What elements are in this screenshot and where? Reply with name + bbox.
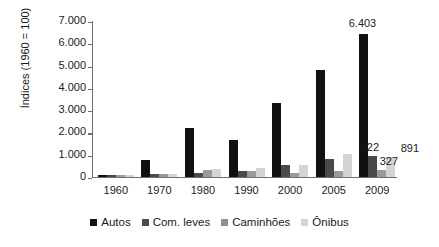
bar-nibus-2000 — [299, 165, 308, 177]
bar-caminh-es-1990 — [247, 171, 256, 177]
legend-label: Caminhões — [232, 216, 290, 228]
bars — [185, 21, 221, 177]
bar-group-2009: 2009 — [359, 21, 395, 177]
y-tick-mark — [88, 156, 92, 157]
y-tick-mark — [88, 178, 92, 179]
y-tick-label: 7.000 — [58, 14, 86, 26]
bars — [141, 21, 177, 177]
bar-nibus-1980 — [212, 169, 221, 177]
bar-group-1980: 1980 — [185, 21, 221, 177]
x-tick-label: 2000 — [278, 184, 302, 196]
x-tick-label: 2005 — [321, 184, 345, 196]
y-axis-title: Índices (1960 = 100) — [19, 0, 31, 138]
legend-swatch-icon — [221, 219, 228, 226]
bar-autos-1980 — [185, 128, 194, 177]
y-tick-label: 4.000 — [58, 81, 86, 93]
y-tick-mark — [88, 133, 92, 134]
data-label-nibus: 891 — [401, 142, 419, 154]
y-tick-mark — [88, 44, 92, 45]
y-tick-label: 2.000 — [58, 125, 86, 137]
bars — [272, 21, 308, 177]
legend-swatch-icon — [142, 219, 149, 226]
bar-com-leves-2000 — [281, 165, 290, 177]
legend-item-autos[interactable]: Autos — [90, 216, 130, 228]
bar-autos-1960 — [98, 175, 107, 177]
bar-chart: Índices (1960 = 100) 01.0002.0003.0004.0… — [0, 0, 439, 247]
data-label-com-leves: 922 — [361, 141, 379, 153]
bar-autos-1990 — [229, 140, 238, 177]
y-tick-label: 3.000 — [58, 103, 86, 115]
bar-caminh-es-1980 — [203, 170, 212, 177]
bar-caminh-es-1960 — [116, 175, 125, 177]
legend-item-nibus[interactable]: Ônibus — [301, 216, 348, 228]
bars — [229, 21, 265, 177]
bar-autos-2005 — [316, 70, 325, 177]
bar-caminh-es-2005 — [334, 171, 343, 177]
legend-swatch-icon — [90, 219, 97, 226]
bar-group-1970: 1970 — [141, 21, 177, 177]
bar-autos-1970 — [141, 160, 150, 177]
y-tick-mark — [88, 111, 92, 112]
bar-com-leves-2009 — [368, 156, 377, 177]
legend-label: Ônibus — [312, 216, 348, 228]
bar-com-leves-1980 — [194, 173, 203, 177]
bar-com-leves-1960 — [107, 175, 116, 177]
bar-group-2000: 2000 — [272, 21, 308, 177]
x-tick-label: 1980 — [191, 184, 215, 196]
y-axis-line — [92, 21, 93, 178]
x-tick-label: 2009 — [365, 184, 389, 196]
bar-caminh-es-2009 — [377, 170, 386, 177]
x-tick-label: 1960 — [104, 184, 128, 196]
legend-item-caminh-es[interactable]: Caminhões — [221, 216, 290, 228]
bar-nibus-1990 — [256, 168, 265, 177]
bars — [98, 21, 134, 177]
y-tick-label: 0 — [80, 170, 86, 182]
data-label-caminh-es: 327 — [380, 155, 398, 167]
y-tick-label: 1.000 — [58, 148, 86, 160]
y-tick-label: 5.000 — [58, 59, 86, 71]
bar-group-1990: 1990 — [229, 21, 265, 177]
bar-autos-2009 — [359, 34, 368, 177]
bar-autos-2000 — [272, 103, 281, 177]
y-tick-label: 6.000 — [58, 36, 86, 48]
bar-caminh-es-2000 — [290, 173, 299, 177]
bar-nibus-1960 — [125, 175, 134, 177]
y-tick-mark — [88, 89, 92, 90]
x-axis-line — [92, 177, 397, 178]
y-tick-mark — [88, 22, 92, 23]
y-tick-mark — [88, 67, 92, 68]
bar-group-1960: 1960 — [98, 21, 134, 177]
data-label-autos: 6.403 — [349, 17, 377, 29]
legend-label: Autos — [101, 216, 130, 228]
plot-area: 01.0002.0003.0004.0005.0006.0007.000 196… — [92, 21, 397, 178]
bars — [316, 21, 352, 177]
chart-legend: AutosCom. levesCaminhõesÔnibus — [0, 216, 439, 228]
x-tick-label: 1970 — [147, 184, 171, 196]
bar-nibus-2005 — [343, 154, 352, 177]
bar-com-leves-2005 — [325, 159, 334, 177]
bar-group-2005: 2005 — [316, 21, 352, 177]
bar-nibus-1970 — [168, 174, 177, 177]
legend-label: Com. leves — [153, 216, 211, 228]
legend-swatch-icon — [301, 219, 308, 226]
legend-item-com-leves[interactable]: Com. leves — [142, 216, 211, 228]
x-tick-label: 1990 — [234, 184, 258, 196]
bar-com-leves-1990 — [238, 171, 247, 177]
bar-caminh-es-1970 — [159, 174, 168, 177]
bar-com-leves-1970 — [150, 174, 159, 177]
bars — [359, 21, 395, 177]
